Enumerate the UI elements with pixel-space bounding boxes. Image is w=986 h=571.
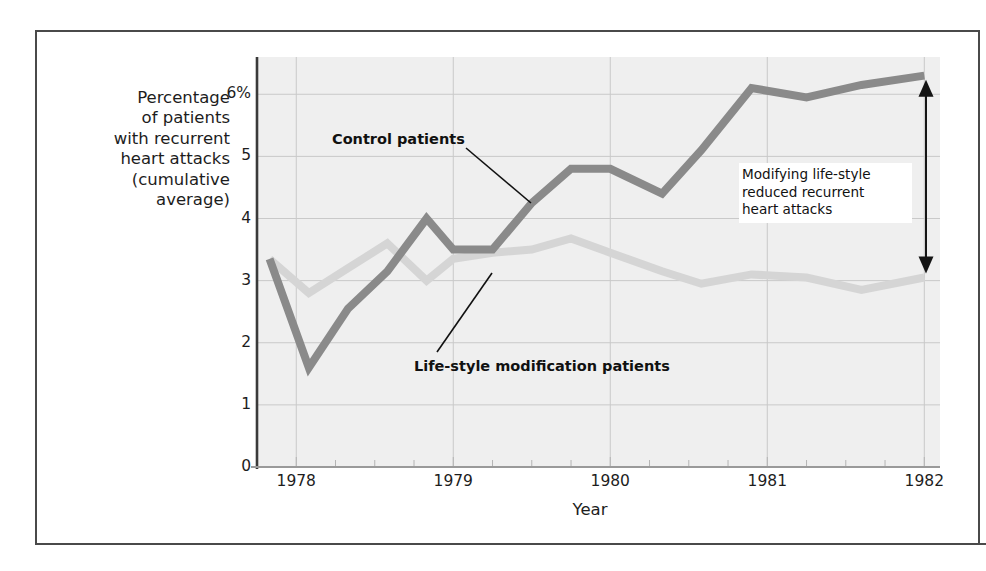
plot-canvas [0, 0, 986, 571]
lifestyle-patients-label: Life-style modification patients [414, 358, 670, 374]
difference-note-line: Modifying life-style [742, 166, 908, 184]
control-patients-label: Control patients [332, 131, 465, 147]
difference-note-line: heart attacks [742, 201, 908, 219]
difference-note: Modifying life-style reduced recurrent h… [739, 163, 912, 223]
chart-figure: Percentage of patients with recurrent he… [0, 0, 986, 571]
difference-note-line: reduced recurrent [742, 184, 908, 202]
